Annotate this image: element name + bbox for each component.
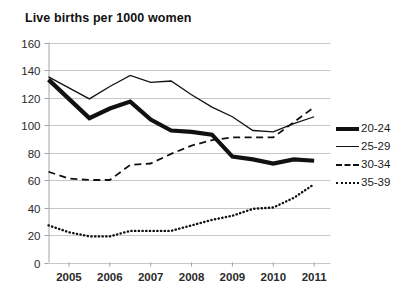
legend-label: 30-34 xyxy=(361,159,390,171)
series-line-35-39 xyxy=(49,184,315,236)
x-tick-label: 2009 xyxy=(220,271,246,283)
y-tick-label: 20 xyxy=(28,230,41,242)
legend-item-30-34[interactable]: 30-34 xyxy=(336,156,406,173)
y-tick-label: 40 xyxy=(28,203,41,215)
x-tick-label: 2006 xyxy=(97,271,123,283)
legend-label: 20-24 xyxy=(361,123,390,135)
x-tick-label: 2011 xyxy=(302,271,328,283)
legend-swatch-icon xyxy=(336,141,359,153)
y-tick-label: 160 xyxy=(21,38,40,50)
x-tick-label: 2007 xyxy=(138,271,164,283)
y-tick-label: 140 xyxy=(21,65,40,77)
legend-item-35-39[interactable]: 35-39 xyxy=(336,174,406,191)
legend-swatch-icon xyxy=(336,123,359,135)
legend-swatch-icon xyxy=(336,159,359,171)
y-tick-label: 80 xyxy=(28,148,41,160)
series-line-20-24 xyxy=(49,80,315,164)
legend-item-25-29[interactable]: 25-29 xyxy=(336,138,406,155)
gridlines xyxy=(45,43,331,267)
legend-swatch-icon xyxy=(336,177,359,189)
legend-label: 25-29 xyxy=(361,141,390,153)
y-axis-tick-labels: 160140120100806040200 xyxy=(21,38,40,270)
y-tick-label: 100 xyxy=(21,120,40,132)
series-line-25-29 xyxy=(49,76,315,132)
x-tick-label: 2010 xyxy=(260,271,286,283)
legend-label: 35-39 xyxy=(361,177,390,189)
chart-legend: 20-2425-2930-3435-39 xyxy=(336,120,406,192)
x-tick-label: 2005 xyxy=(56,271,82,283)
x-tick-label: 2008 xyxy=(179,271,205,283)
y-tick-label: 120 xyxy=(21,93,40,105)
chart-container: Live births per 1000 women 1601401201008… xyxy=(0,0,406,305)
legend-item-20-24[interactable]: 20-24 xyxy=(336,120,406,137)
data-series-group xyxy=(49,76,315,237)
y-tick-label: 60 xyxy=(28,175,41,187)
x-axis-tick-labels: 2005200620072008200920102011 xyxy=(56,271,327,283)
y-tick-label: 0 xyxy=(34,258,40,270)
